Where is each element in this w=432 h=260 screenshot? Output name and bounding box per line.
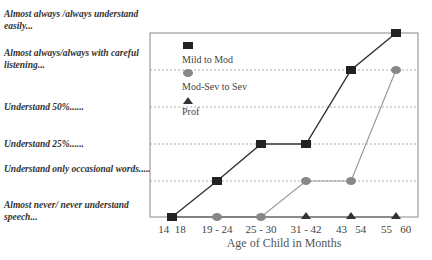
svg-text:31 - 42: 31 - 42 [290,223,321,235]
x-tick-labels: 14 18 19 - 24 25 - 30 31 - 42 43 54 55 6… [158,223,411,235]
legend-mod-sev: Mod-Sev to Sev [182,81,247,92]
legend-triangle-icon [183,97,193,104]
legend: Mild to Mod Mod-Sev to Sev Prof [182,42,247,117]
legend-prof: Prof [182,106,200,117]
svg-text:19 - 24: 19 - 24 [201,223,233,235]
svg-text:14 18: 14 18 [158,223,186,235]
legend-square-icon [183,42,193,49]
line-chart: Mild to Mod Mod-Sev to Sev Prof 14 18 19… [0,0,432,260]
legend-mild: Mild to Mod [182,54,233,65]
x-axis-title: Age of Child in Months [227,236,342,250]
svg-text:55 60: 55 60 [381,223,412,235]
legend-circle-icon [183,69,193,77]
svg-text:43 54: 43 54 [336,223,367,235]
series-prof-markers [301,212,401,219]
svg-text:25 - 30: 25 - 30 [245,223,277,235]
